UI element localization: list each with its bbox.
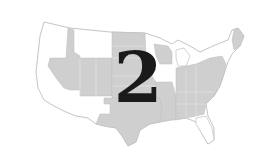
florida-outline <box>196 116 214 144</box>
region-maine-shaded <box>232 28 244 50</box>
big-number-label: 2 <box>112 42 164 114</box>
